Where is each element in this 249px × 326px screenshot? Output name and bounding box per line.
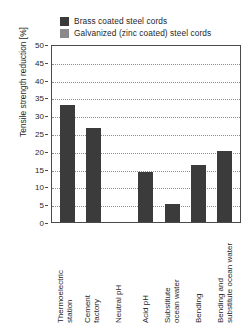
- legend-item-galvanized: Galvanized (zinc coated) steel cords: [60, 28, 211, 38]
- y-tick-mark: [45, 63, 48, 64]
- x-tick-label: Thermoelectricstation: [58, 227, 75, 323]
- bar-slot: [54, 46, 80, 222]
- x-tick-label: Bending: [195, 227, 204, 323]
- y-tick-label: 20: [35, 147, 44, 156]
- y-tick-mark: [45, 45, 48, 46]
- bar: [86, 128, 101, 222]
- x-slot: Bending andsubstitute ocean water: [212, 225, 239, 325]
- bar: [165, 204, 180, 222]
- legend-item-brass: Brass coated steel cords: [60, 16, 211, 26]
- x-slot: Acid pH: [133, 225, 160, 325]
- bar-slot: [107, 46, 133, 222]
- x-slot: Cementfactory: [80, 225, 107, 325]
- legend-label-brass: Brass coated steel cords: [74, 16, 167, 26]
- y-tick-mark: [45, 116, 48, 117]
- y-tick-mark: [45, 152, 48, 153]
- legend-swatch-brass: [60, 17, 69, 26]
- bar-slot: [185, 46, 211, 222]
- legend-label-galvanized: Galvanized (zinc coated) steel cords: [74, 28, 211, 38]
- x-tick-label-line: factory: [93, 227, 102, 323]
- x-tick-label: Acid pH: [142, 227, 151, 323]
- x-tick-label-line: Bending: [195, 227, 204, 323]
- bar: [217, 151, 232, 222]
- x-tick-label-line: ocean water: [173, 227, 182, 323]
- x-tick-label: Cementfactory: [84, 227, 101, 323]
- bar-slot: [80, 46, 106, 222]
- bar: [138, 172, 153, 222]
- bar-slot: [133, 46, 159, 222]
- x-slot: Substituteocean water: [159, 225, 186, 325]
- y-tick-label: 45: [35, 58, 44, 67]
- y-axis-title: Tensile strength reduction [%]: [18, 0, 28, 167]
- bar: [60, 105, 75, 222]
- x-tick-label-line: station: [66, 227, 75, 323]
- x-tick-label: Bending andsubstitute ocean water: [217, 227, 234, 323]
- y-tick-mark: [45, 187, 48, 188]
- y-tick-mark: [45, 134, 48, 135]
- x-tick-label: Substituteocean water: [164, 227, 181, 323]
- bar: [191, 165, 206, 222]
- y-tick-mark: [45, 98, 48, 99]
- y-tick-mark: [45, 205, 48, 206]
- x-slot: Thermoelectricstation: [53, 225, 80, 325]
- bar-slot: [212, 46, 238, 222]
- y-tick-label: 10: [35, 183, 44, 192]
- x-tick-label-line: Acid pH: [142, 227, 151, 323]
- plot-area: [51, 45, 241, 223]
- y-tick-label: 5: [40, 201, 44, 210]
- y-tick-mark: [45, 223, 48, 224]
- y-tick-label: 15: [35, 165, 44, 174]
- y-tick-label: 40: [35, 76, 44, 85]
- x-tick-label-line: Substitute: [164, 227, 173, 323]
- y-tick-label: 50: [35, 41, 44, 50]
- bar-chart: Brass coated steel cords Galvanized (zin…: [0, 0, 249, 326]
- y-tick-mark: [45, 170, 48, 171]
- chart-legend: Brass coated steel cords Galvanized (zin…: [60, 16, 211, 38]
- y-tick-label: 0: [40, 219, 44, 228]
- y-tick-label: 25: [35, 130, 44, 139]
- y-tick-label: 35: [35, 94, 44, 103]
- bar-slot: [159, 46, 185, 222]
- x-slot: Bending: [186, 225, 213, 325]
- x-slot: Neutral pH: [106, 225, 133, 325]
- bar-group: [52, 46, 240, 222]
- y-tick-mark: [45, 81, 48, 82]
- legend-swatch-galvanized: [60, 29, 69, 38]
- x-axis-labels: ThermoelectricstationCementfactoryNeutra…: [51, 225, 241, 325]
- x-tick-label: Neutral pH: [115, 227, 124, 323]
- y-tick-label: 30: [35, 112, 44, 121]
- x-tick-label-line: Neutral pH: [115, 227, 124, 323]
- x-tick-label-line: substitute ocean water: [226, 227, 235, 323]
